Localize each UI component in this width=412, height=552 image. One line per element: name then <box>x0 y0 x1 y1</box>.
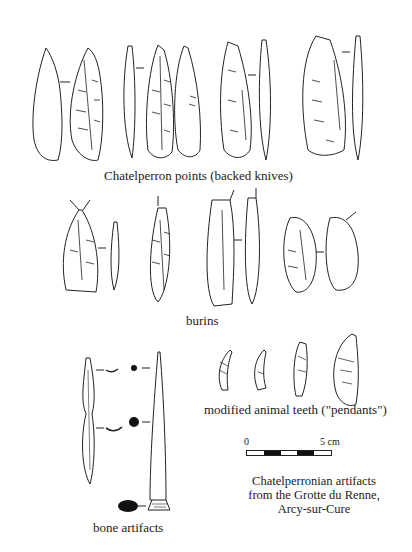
burins-drawings <box>63 188 358 306</box>
caption-line-1: Chatelperronian artifacts <box>216 474 412 488</box>
chatelperron-points-label: Chatelperron points (backed knives) <box>104 168 293 183</box>
artifact-drawings <box>0 0 412 552</box>
burins-label: burins <box>186 313 219 328</box>
scale-start-label: 0 <box>244 436 249 447</box>
caption-line-2: from the Grotte du Renne, <box>216 488 412 502</box>
bone-artifacts-drawings <box>83 352 170 512</box>
scale-end-label: 5 cm <box>320 436 340 447</box>
figure-caption: Chatelperronian artifacts from the Grott… <box>216 474 412 516</box>
scale-bar-graphic <box>246 450 332 456</box>
chatelperron-points-drawings <box>33 36 363 160</box>
teeth-drawings <box>219 334 358 406</box>
teeth-label: modified animal teeth ("pendants") <box>204 402 387 417</box>
bone-artifacts-label: bone artifacts <box>93 520 163 535</box>
scale-bar: 0 5 cm <box>246 436 346 460</box>
caption-line-3: Arcy-sur-Cure <box>216 502 412 516</box>
